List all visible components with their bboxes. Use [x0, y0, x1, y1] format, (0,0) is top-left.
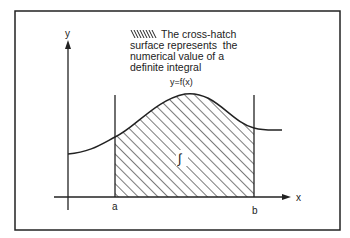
y-axis-label: y [65, 28, 70, 39]
integral-diagram: The cross-hatch surface represents the n… [0, 0, 350, 238]
upper-bound-label: b [252, 205, 258, 216]
hatched-area [110, 85, 260, 200]
x-axis-arrow-icon [282, 194, 291, 200]
hatch-swatch-icon [131, 30, 156, 38]
x-axis-label: x [296, 192, 301, 203]
caption-line-4: definite integral [130, 61, 201, 73]
lower-bound-label: a [112, 201, 118, 212]
y-axis-arrow-icon [65, 40, 71, 49]
curve-label: y=f(x) [170, 77, 193, 87]
